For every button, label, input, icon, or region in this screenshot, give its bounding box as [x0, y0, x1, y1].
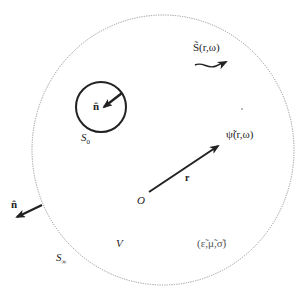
diagram-canvas: n̂ n̂ S0 S∞ V O r S̃(r,ω) ψ̃(r,ω) (ε̃,μ̃… — [0, 0, 304, 294]
medium-parameters-label: (ε̃,μ̃,σ̃) — [197, 238, 226, 249]
outer-normal-arrow — [17, 205, 42, 217]
inner-boundary-label: S0 — [81, 132, 90, 146]
source-wave-arrow — [195, 62, 226, 67]
speck-mark — [241, 108, 243, 110]
origin-label: O — [137, 195, 145, 206]
diagram-svg — [0, 0, 304, 294]
inner-boundary-circle — [76, 82, 126, 132]
outer-normal-label: n̂ — [11, 199, 17, 210]
outer-boundary-label: S∞ — [56, 252, 67, 266]
inner-normal-arrow — [104, 93, 122, 107]
position-vector-arrow — [149, 146, 218, 192]
position-vector-label: r — [185, 173, 189, 183]
inner-normal-label: n̂ — [93, 101, 99, 112]
source-label: S̃(r,ω) — [193, 42, 220, 53]
volume-label: V — [116, 238, 123, 249]
outer-boundary-circle — [32, 15, 294, 285]
field-label: ψ̃(r,ω) — [226, 129, 253, 140]
